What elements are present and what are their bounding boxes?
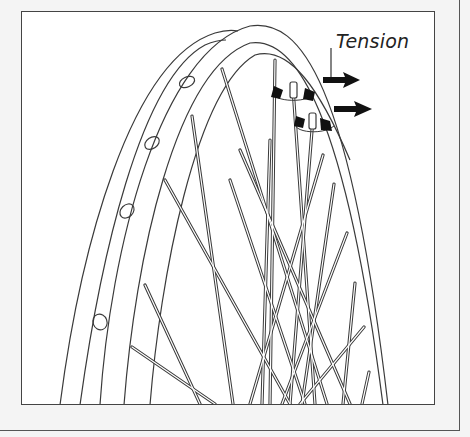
arrow-right-icon <box>334 101 372 117</box>
tension-arrows <box>323 72 372 117</box>
arrow-right-icon <box>323 72 360 88</box>
rim-holes <box>91 74 197 332</box>
rear-rim <box>60 30 238 405</box>
wheel-illustration <box>0 0 470 437</box>
tension-label: Tension <box>336 30 409 52</box>
